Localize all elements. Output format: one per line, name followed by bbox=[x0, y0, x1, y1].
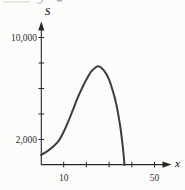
scan-artifact-smudge bbox=[3, 1, 30, 3]
scan-artifact-speck bbox=[57, 0, 62, 1]
x-tick-label: 10 bbox=[59, 173, 69, 183]
y-axis-arrow-icon bbox=[38, 22, 44, 31]
s-curve bbox=[41, 66, 125, 165]
x-axis-title: x bbox=[174, 157, 180, 169]
x-tick-label: 50 bbox=[150, 173, 160, 183]
scan-artifact-descender bbox=[37, 0, 42, 3]
y-tick-label: 10,000 bbox=[11, 33, 37, 43]
y-tick-label: 2,000 bbox=[16, 135, 38, 145]
x-axis-arrow-icon bbox=[163, 162, 172, 168]
textbook-graph-figure: 10502,00010,000 S x bbox=[0, 0, 185, 190]
y-axis-title: S bbox=[45, 5, 51, 17]
curve-plot: 10502,00010,000 S x bbox=[0, 0, 185, 190]
